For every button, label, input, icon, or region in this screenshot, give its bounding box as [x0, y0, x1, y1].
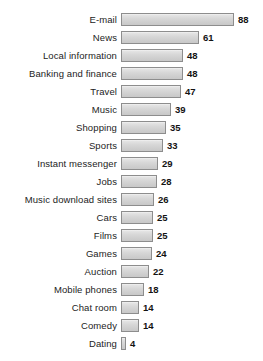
category-label: Instant messenger	[37, 157, 117, 170]
value-label: 39	[175, 103, 186, 116]
bar-row: Music39	[0, 103, 263, 116]
bar-row: E-mail88	[0, 13, 263, 26]
bar	[121, 49, 183, 62]
bar-row: News61	[0, 31, 263, 44]
category-label: Dating	[89, 337, 117, 350]
category-label: Cars	[97, 211, 117, 224]
category-label: Shopping	[76, 121, 117, 134]
bar	[121, 121, 166, 134]
category-label: Films	[94, 229, 117, 242]
bar	[121, 175, 157, 188]
category-label: Chat room	[72, 301, 117, 314]
bar	[121, 319, 139, 332]
bar	[121, 265, 149, 278]
value-label: 14	[143, 319, 154, 332]
value-label: 48	[187, 49, 198, 62]
value-label: 47	[185, 85, 196, 98]
category-label: Music download sites	[25, 193, 117, 206]
category-label: Jobs	[97, 175, 117, 188]
bar	[121, 103, 171, 116]
bar	[121, 85, 181, 98]
bar-row: Shopping35	[0, 121, 263, 134]
value-label: 24	[156, 247, 167, 260]
bar	[121, 211, 153, 224]
value-label: 26	[158, 193, 169, 206]
bar-row: Dating4	[0, 337, 263, 350]
bar-row: Comedy14	[0, 319, 263, 332]
value-label: 25	[157, 229, 168, 242]
bar-row: Auction22	[0, 265, 263, 278]
category-label: Local information	[43, 49, 117, 62]
bar	[121, 247, 152, 260]
category-label: Music	[92, 103, 117, 116]
value-label: 18	[148, 283, 159, 296]
bar	[121, 139, 163, 152]
value-label: 88	[238, 13, 249, 26]
category-label: Mobile phones	[54, 283, 117, 296]
bar-row: Films25	[0, 229, 263, 242]
bar-row: Instant messenger29	[0, 157, 263, 170]
bar-row: Mobile phones18	[0, 283, 263, 296]
category-label: Auction	[85, 265, 117, 278]
bar	[121, 337, 126, 350]
category-label: Banking and finance	[29, 67, 117, 80]
category-label: E-mail	[89, 13, 117, 26]
bar-row: Music download sites26	[0, 193, 263, 206]
value-label: 61	[203, 31, 214, 44]
value-label: 14	[143, 301, 154, 314]
category-label: Sports	[89, 139, 117, 152]
bar-row: Travel47	[0, 85, 263, 98]
bar-row: Cars25	[0, 211, 263, 224]
bar	[121, 301, 139, 314]
value-label: 48	[187, 67, 198, 80]
bar-row: Jobs28	[0, 175, 263, 188]
value-label: 35	[170, 121, 181, 134]
bar	[121, 283, 144, 296]
value-label: 33	[167, 139, 178, 152]
bar	[121, 157, 158, 170]
bar-row: Games24	[0, 247, 263, 260]
bar-row: Sports33	[0, 139, 263, 152]
value-label: 4	[130, 337, 135, 350]
value-label: 22	[153, 265, 164, 278]
value-label: 25	[157, 211, 168, 224]
bar-row: Chat room14	[0, 301, 263, 314]
horizontal-bar-chart: E-mail88News61Local information48Banking…	[0, 0, 263, 361]
bar	[121, 31, 199, 44]
bar	[121, 67, 183, 80]
bar	[121, 229, 153, 242]
bar	[121, 13, 234, 26]
value-label: 28	[161, 175, 172, 188]
category-label: Comedy	[81, 319, 117, 332]
bar-row: Local information48	[0, 49, 263, 62]
category-label: Games	[86, 247, 117, 260]
bar	[121, 193, 154, 206]
value-label: 29	[162, 157, 173, 170]
category-label: Travel	[90, 85, 117, 98]
category-label: News	[93, 31, 117, 44]
bar-row: Banking and finance48	[0, 67, 263, 80]
